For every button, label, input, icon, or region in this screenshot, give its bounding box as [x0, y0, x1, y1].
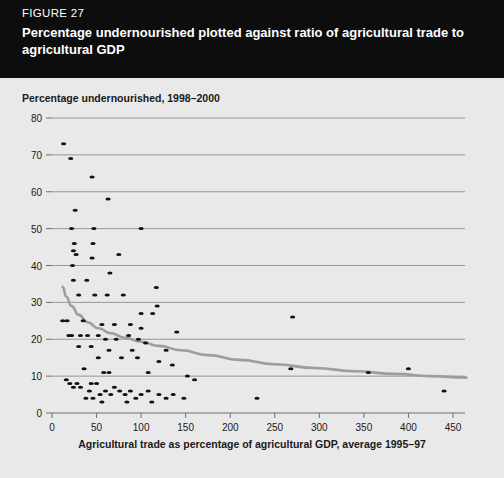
- data-point-0-92: [149, 400, 154, 403]
- data-point-0-29: [81, 319, 86, 322]
- data-point-0-41: [114, 338, 119, 341]
- data-point-0-76: [117, 389, 122, 392]
- y-tick-label-50: 50: [16, 223, 42, 234]
- data-point-0-14: [70, 264, 75, 267]
- chart-body: Percentage undernourished, 1998–2000 010…: [0, 78, 504, 478]
- x-tick-label-250: 250: [258, 422, 292, 433]
- x-tick-label-100: 100: [124, 422, 158, 433]
- data-point-0-62: [366, 371, 371, 374]
- scatter-plot-canvas: [0, 78, 504, 478]
- data-point-0-50: [96, 356, 101, 359]
- data-point-0-84: [171, 393, 176, 396]
- data-point-0-22: [121, 294, 126, 297]
- data-point-0-28: [65, 319, 70, 322]
- data-point-0-75: [112, 386, 117, 389]
- data-point-0-12: [90, 257, 95, 260]
- data-point-0-13: [116, 253, 121, 256]
- x-tick-label-0: 0: [35, 422, 69, 433]
- data-point-0-48: [130, 349, 135, 352]
- data-point-0-25: [150, 312, 155, 315]
- data-point-0-56: [82, 367, 87, 370]
- data-point-0-42: [126, 334, 131, 337]
- figure-title: Percentage undernourished plotted agains…: [22, 24, 492, 58]
- data-point-0-24: [139, 312, 144, 315]
- data-point-0-82: [156, 393, 161, 396]
- data-point-0-38: [85, 334, 90, 337]
- data-point-0-5: [69, 227, 74, 230]
- data-point-0-80: [139, 393, 144, 396]
- data-point-0-67: [71, 386, 76, 389]
- x-tick-label-350: 350: [347, 422, 381, 433]
- data-point-0-8: [72, 242, 77, 245]
- data-point-0-65: [67, 382, 72, 385]
- data-point-0-32: [128, 323, 133, 326]
- data-point-0-9: [90, 242, 95, 245]
- data-point-0-64: [64, 378, 69, 381]
- y-tick-label-10: 10: [16, 371, 42, 382]
- data-point-0-57: [101, 371, 106, 374]
- data-point-0-70: [94, 382, 99, 385]
- data-point-0-4: [73, 209, 78, 212]
- data-point-0-23: [155, 305, 160, 308]
- data-point-0-43: [136, 338, 141, 341]
- data-point-0-10: [71, 249, 76, 252]
- x-tick-label-450: 450: [436, 422, 470, 433]
- data-point-0-59: [146, 371, 151, 374]
- data-point-0-18: [154, 286, 159, 289]
- trend-curve: [63, 287, 467, 378]
- data-point-0-90: [99, 400, 104, 403]
- figure-number-label: FIGURE 27: [22, 7, 84, 19]
- data-point-0-40: [103, 338, 108, 341]
- data-point-0-19: [76, 294, 81, 297]
- x-axis-title: Agricultural trade as percentage of agri…: [0, 438, 504, 450]
- data-point-0-45: [76, 345, 81, 348]
- data-point-0-54: [170, 364, 175, 367]
- data-point-0-87: [442, 389, 447, 392]
- data-point-0-7: [139, 227, 144, 230]
- data-point-0-58: [106, 371, 111, 374]
- x-tick-label-200: 200: [213, 422, 247, 433]
- data-point-0-66: [74, 382, 79, 385]
- data-point-0-1: [68, 157, 73, 160]
- x-tick-label-150: 150: [169, 422, 203, 433]
- data-point-0-44: [143, 341, 148, 344]
- data-point-0-63: [406, 367, 411, 370]
- data-point-0-30: [99, 323, 104, 326]
- data-point-0-33: [139, 327, 144, 330]
- data-point-0-0: [61, 142, 66, 145]
- data-point-0-26: [290, 316, 295, 319]
- y-tick-label-0: 0: [16, 408, 42, 419]
- x-tick-label-50: 50: [80, 422, 114, 433]
- data-point-0-60: [185, 375, 190, 378]
- data-point-0-2: [90, 176, 95, 179]
- data-point-0-6: [91, 227, 96, 230]
- data-point-0-39: [96, 334, 101, 337]
- data-point-0-61: [192, 378, 197, 381]
- y-tick-label-60: 60: [16, 186, 42, 197]
- data-point-0-77: [123, 393, 128, 396]
- data-point-0-85: [181, 397, 186, 400]
- data-point-0-21: [105, 294, 110, 297]
- data-point-0-17: [84, 279, 89, 282]
- data-point-0-71: [87, 389, 92, 392]
- y-tick-label-80: 80: [16, 113, 42, 124]
- data-point-0-37: [78, 334, 83, 337]
- y-tick-label-40: 40: [16, 260, 42, 271]
- data-point-0-3: [106, 198, 111, 201]
- figure-header-band: FIGURE 27 Percentage undernourished plot…: [0, 0, 504, 78]
- y-tick-label-70: 70: [16, 149, 42, 160]
- data-point-0-52: [135, 356, 140, 359]
- data-point-0-86: [254, 397, 259, 400]
- data-point-0-51: [119, 356, 124, 359]
- data-point-0-81: [146, 389, 151, 392]
- data-point-0-16: [71, 279, 76, 282]
- data-point-0-53: [156, 360, 161, 363]
- data-point-0-46: [89, 345, 94, 348]
- data-point-0-73: [103, 389, 108, 392]
- figure-27-container: FIGURE 27 Percentage undernourished plot…: [0, 0, 504, 478]
- data-point-0-72: [98, 393, 103, 396]
- data-point-0-88: [83, 397, 88, 400]
- data-point-0-89: [90, 397, 95, 400]
- data-point-0-15: [107, 271, 112, 274]
- data-point-0-79: [133, 397, 138, 400]
